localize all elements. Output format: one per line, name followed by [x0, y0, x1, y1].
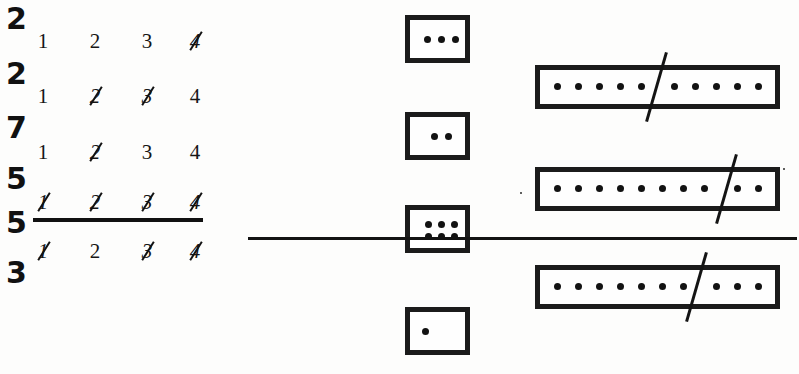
number-glyph: 4 — [190, 238, 201, 264]
dot-mark — [431, 133, 438, 140]
dot-mark — [617, 283, 624, 290]
number-glyph: 3 — [142, 83, 153, 109]
scan-speck — [783, 168, 785, 170]
number-row: 1234 — [30, 189, 215, 215]
dot-mark — [554, 185, 561, 192]
dot-mark — [638, 185, 645, 192]
wide-dot-box[interactable] — [535, 265, 780, 309]
dot-mark — [692, 83, 699, 90]
wide-dot-box[interactable] — [535, 167, 780, 211]
dot-mark — [671, 83, 678, 90]
dot-mark — [755, 185, 762, 192]
number-glyph: 2 — [90, 83, 101, 109]
dot-mark — [755, 83, 762, 90]
dot-mark — [575, 283, 582, 290]
number-glyph: 4 — [190, 189, 201, 215]
dot-mark — [596, 83, 603, 90]
small-dot-box[interactable] — [405, 112, 470, 160]
number-cell-struck[interactable]: 1 — [30, 189, 56, 215]
number-cell[interactable]: 1 — [30, 28, 56, 54]
dot-mark — [617, 83, 624, 90]
dot-mark — [617, 185, 624, 192]
number-glyph: 2 — [90, 238, 101, 264]
number-cell-struck[interactable]: 4 — [182, 28, 208, 54]
dot-mark — [680, 283, 687, 290]
dot-mark — [596, 185, 603, 192]
dot-mark — [445, 133, 452, 140]
worksheet-page: 22755312341234123412341234 — [0, 0, 799, 374]
number-cell-struck[interactable]: 3 — [134, 83, 160, 109]
dot-mark — [638, 283, 645, 290]
answer-line-left — [33, 218, 203, 222]
number-row: 1234 — [30, 139, 215, 165]
number-glyph: 1 — [38, 28, 49, 54]
number-glyph: 1 — [38, 238, 49, 264]
number-cell[interactable]: 2 — [82, 238, 108, 264]
dot-mark — [638, 83, 645, 90]
tally-digit: 2 — [6, 59, 27, 89]
number-cell-struck[interactable]: 4 — [182, 238, 208, 264]
dot-mark — [422, 328, 429, 335]
number-cell-struck[interactable]: 3 — [134, 189, 160, 215]
number-glyph: 3 — [142, 189, 153, 215]
tally-digit: 2 — [6, 4, 27, 34]
number-glyph: 1 — [38, 83, 49, 109]
number-cell[interactable]: 4 — [182, 139, 208, 165]
number-glyph: 4 — [190, 139, 201, 165]
number-glyph: 1 — [38, 139, 49, 165]
number-cell-struck[interactable]: 1 — [30, 238, 56, 264]
number-cell-struck[interactable]: 2 — [82, 189, 108, 215]
dot-mark — [659, 283, 666, 290]
number-cell-struck[interactable]: 4 — [182, 189, 208, 215]
number-cell[interactable]: 4 — [182, 83, 208, 109]
number-glyph: 4 — [190, 83, 201, 109]
dot-mark — [713, 83, 720, 90]
dot-mark — [424, 36, 431, 43]
number-glyph: 2 — [90, 139, 101, 165]
number-cell[interactable]: 3 — [134, 28, 160, 54]
number-glyph: 4 — [190, 28, 201, 54]
dot-mark — [575, 83, 582, 90]
number-glyph: 2 — [90, 189, 101, 215]
number-glyph: 1 — [38, 189, 49, 215]
number-cell-struck[interactable]: 3 — [134, 238, 160, 264]
number-glyph: 3 — [142, 238, 153, 264]
dot-mark — [734, 283, 741, 290]
dot-mark — [452, 36, 459, 43]
tally-digit: 3 — [6, 258, 27, 288]
dot-mark — [713, 283, 720, 290]
dot-mark — [575, 185, 582, 192]
number-cell[interactable]: 3 — [134, 139, 160, 165]
dot-mark — [596, 283, 603, 290]
dot-mark — [755, 283, 762, 290]
dot-mark — [734, 185, 741, 192]
tally-digit: 7 — [6, 113, 27, 143]
small-dot-box[interactable] — [405, 205, 470, 253]
dot-mark — [680, 185, 687, 192]
number-cell[interactable]: 2 — [82, 28, 108, 54]
dot-mark — [554, 83, 561, 90]
dot-mark — [701, 185, 708, 192]
number-cell-struck[interactable]: 2 — [82, 139, 108, 165]
number-glyph: 3 — [142, 139, 153, 165]
dot-mark — [451, 221, 458, 228]
dot-mark — [554, 283, 561, 290]
dot-mark — [734, 83, 741, 90]
number-glyph: 3 — [142, 28, 153, 54]
number-row: 1234 — [30, 28, 215, 54]
dot-boxes-area — [250, 0, 799, 374]
scan-speck — [520, 192, 522, 194]
number-cell-struck[interactable]: 2 — [82, 83, 108, 109]
number-cell[interactable]: 1 — [30, 83, 56, 109]
dot-mark — [425, 221, 432, 228]
number-row: 1234 — [30, 83, 215, 109]
tally-and-numbers-column: 22755312341234123412341234 — [0, 0, 250, 374]
small-dot-box[interactable] — [405, 15, 470, 63]
small-dot-box[interactable] — [405, 307, 470, 355]
tally-digit: 5 — [6, 164, 27, 194]
dot-mark — [438, 36, 445, 43]
number-cell[interactable]: 1 — [30, 139, 56, 165]
answer-line-right — [248, 237, 797, 240]
dot-mark — [659, 185, 666, 192]
dot-mark — [438, 221, 445, 228]
